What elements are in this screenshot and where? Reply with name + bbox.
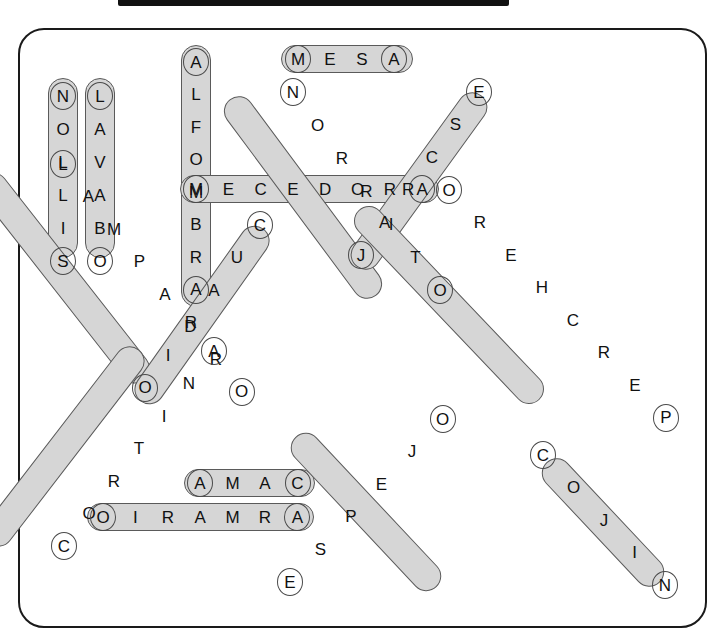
word-endpoint-marker	[436, 176, 462, 204]
grid-letter[interactable]: A	[188, 505, 212, 529]
grid-letter[interactable]: R	[253, 505, 277, 529]
grid-letter[interactable]: O	[306, 113, 330, 137]
word-endpoint-marker	[50, 82, 76, 110]
grid-letter[interactable]: A	[88, 117, 112, 141]
word-endpoint-marker	[50, 150, 76, 178]
word-endpoint-marker	[348, 241, 374, 269]
grid-letter[interactable]: S	[309, 537, 333, 561]
grid-letter[interactable]: R	[355, 179, 379, 203]
word-endpoint-marker	[285, 45, 311, 73]
grid-letter[interactable]: I	[152, 404, 176, 428]
word-endpoint-marker	[90, 503, 116, 531]
word-endpoint-marker	[427, 276, 453, 304]
grid-letter[interactable]: E	[499, 243, 523, 267]
grid-letter[interactable]: R	[184, 245, 208, 269]
word-endpoint-marker	[50, 247, 76, 275]
grid-letter[interactable]: B	[184, 213, 208, 237]
grid-letter[interactable]: R	[156, 505, 180, 529]
word-endpoint-marker	[187, 469, 213, 497]
word-endpoint-marker	[229, 378, 255, 406]
grid-letter[interactable]: D	[313, 177, 337, 201]
grid-letter[interactable]: R	[102, 469, 126, 493]
word-endpoint-marker	[183, 175, 209, 203]
grid-letter[interactable]: R	[468, 211, 492, 235]
grid-letter[interactable]: A	[253, 471, 277, 495]
word-endpoint-marker	[183, 48, 209, 76]
grid-letter[interactable]: P	[339, 505, 363, 529]
grid-letter[interactable]: R	[330, 146, 354, 170]
grid-letter[interactable]: M	[221, 471, 245, 495]
grid-letter[interactable]: C	[561, 308, 585, 332]
word-endpoint-marker	[201, 337, 227, 365]
grid-letter[interactable]: E	[216, 177, 240, 201]
grid-letter[interactable]: R	[592, 341, 616, 365]
word-endpoint-marker	[466, 78, 492, 106]
grid-letter[interactable]: V	[88, 150, 112, 174]
grid-letter[interactable]: T	[404, 245, 428, 269]
grid-letter[interactable]: M	[221, 505, 245, 529]
grid-letter[interactable]: I	[123, 505, 147, 529]
grid-letter[interactable]: I	[156, 343, 180, 367]
grid-letter[interactable]: S	[443, 113, 467, 137]
grid-letter[interactable]: C	[420, 145, 444, 169]
grid-letter[interactable]: S	[350, 47, 374, 71]
grid-letter[interactable]: C	[249, 177, 273, 201]
word-endpoint-marker	[285, 469, 311, 497]
grid-letter[interactable]: E	[318, 47, 342, 71]
grid-letter[interactable]: T	[127, 437, 151, 461]
grid-letter[interactable]: A	[77, 185, 101, 209]
screenshot-root: NOLLISLAVABOALFOMBRAMESAMECEDORANORRITOE…	[0, 0, 721, 640]
word-endpoint-marker	[652, 571, 678, 599]
grid-letter[interactable]: E	[623, 373, 647, 397]
word-endpoint-marker	[277, 568, 303, 596]
word-endpoint-marker	[87, 247, 113, 275]
grid-letter[interactable]: F	[184, 115, 208, 139]
word-endpoint-marker	[430, 405, 456, 433]
grid-letter[interactable]: R	[396, 178, 420, 202]
grid-letter[interactable]: I	[51, 216, 75, 240]
grid-letter[interactable]: R	[179, 311, 203, 335]
word-endpoint-marker	[51, 532, 77, 560]
word-endpoint-marker	[530, 441, 556, 469]
word-endpoint-marker	[87, 82, 113, 110]
grid-letter[interactable]: M	[102, 217, 126, 241]
word-endpoint-marker	[280, 78, 306, 106]
grid-letter[interactable]: H	[530, 276, 554, 300]
grid-letter[interactable]: A	[153, 282, 177, 306]
word-endpoint-marker	[381, 45, 407, 73]
grid-letter[interactable]: O	[51, 117, 75, 141]
grid-letter[interactable]: J	[592, 508, 616, 532]
grid-letter[interactable]: L	[184, 83, 208, 107]
grid-letter[interactable]: N	[177, 372, 201, 396]
grid-letter[interactable]: O	[184, 148, 208, 172]
word-search-grid[interactable]: NOLLISLAVABOALFOMBRAMESAMECEDORANORRITOE…	[0, 0, 721, 640]
grid-letter[interactable]: L	[51, 183, 75, 207]
grid-letter[interactable]: E	[281, 177, 305, 201]
grid-letter[interactable]: U	[225, 246, 249, 270]
grid-letter[interactable]: J	[400, 440, 424, 464]
grid-letter[interactable]: A	[202, 278, 226, 302]
grid-letter[interactable]: P	[128, 250, 152, 274]
grid-letter[interactable]: A	[373, 210, 397, 234]
grid-letter[interactable]: I	[623, 541, 647, 565]
word-endpoint-marker	[132, 374, 158, 402]
word-endpoint-marker	[247, 211, 273, 239]
word-endpoint-marker	[653, 404, 679, 432]
grid-letter[interactable]: E	[370, 472, 394, 496]
grid-letter[interactable]: O	[562, 476, 586, 500]
